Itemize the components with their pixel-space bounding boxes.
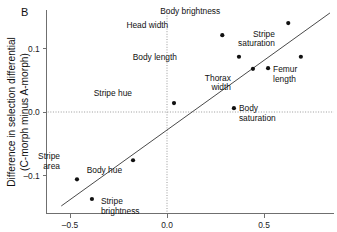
scatter-plot: 0.10.0–0.1–0.50.00.5 Body brightnessHead… [0,0,337,232]
data-point-label: Bodysaturation [239,103,276,123]
point-labels-layer: Body brightnessHead widthStripesaturatio… [38,6,297,215]
data-point-label: Body brightness [160,6,220,16]
y-tick-label: –0.1 [23,171,40,181]
data-point [172,101,176,105]
data-point [251,67,255,71]
data-point-label-line: brightness [101,206,140,216]
tick-labels-layer: 0.10.0–0.1–0.50.00.5 [23,44,270,230]
data-point [286,21,290,25]
data-point-label-line: Stripe [101,196,123,206]
data-point [266,66,270,70]
data-point-label-line: Body [239,103,259,113]
x-tick-label: 0.5 [258,220,270,230]
data-point-label-line: Thorax [205,73,232,83]
data-point-label: Stripebrightness [101,196,140,216]
data-point-label-line: Stripe [253,29,275,39]
data-point [75,177,79,181]
data-point [299,55,303,59]
x-tick-label: –0.5 [62,220,79,230]
data-point-label-line: Femur [273,64,297,74]
data-point-label-line: length [273,74,296,84]
chart-root: 0.10.0–0.1–0.50.00.5 Body brightnessHead… [0,0,337,232]
data-point-label-line: saturation [239,113,276,123]
data-point-label: Stripearea [38,151,60,171]
regression-line [61,13,330,206]
data-point-label: Stripe hue [94,88,133,98]
data-point-label: Thoraxwidth [205,73,232,93]
fit-line-layer [61,13,330,206]
data-point [237,55,241,59]
data-point [131,158,135,162]
data-point-label: Body hue [87,165,123,175]
data-point-label: Body length [133,52,178,62]
data-point-label-line: width [210,82,231,92]
data-point-label: Head width [126,20,168,30]
y-axis-title-layer: Difference in selection differential(C-m… [6,37,30,187]
panel-label: B [21,6,28,18]
x-tick-label: 0.0 [161,220,173,230]
y-axis-title: (C-morph minus A-morph) [19,53,30,171]
y-tick-label: 0.1 [28,44,40,54]
data-point-label: Femurlength [273,64,297,84]
data-point-label-line: area [43,161,60,171]
data-point [220,33,224,37]
data-point [232,106,236,110]
data-point [90,197,94,201]
data-point-label-line: saturation [238,38,275,48]
data-point-label-line: Stripe [38,151,60,161]
y-axis-title: Difference in selection differential [6,37,17,187]
data-point-label: Stripesaturation [238,29,275,49]
